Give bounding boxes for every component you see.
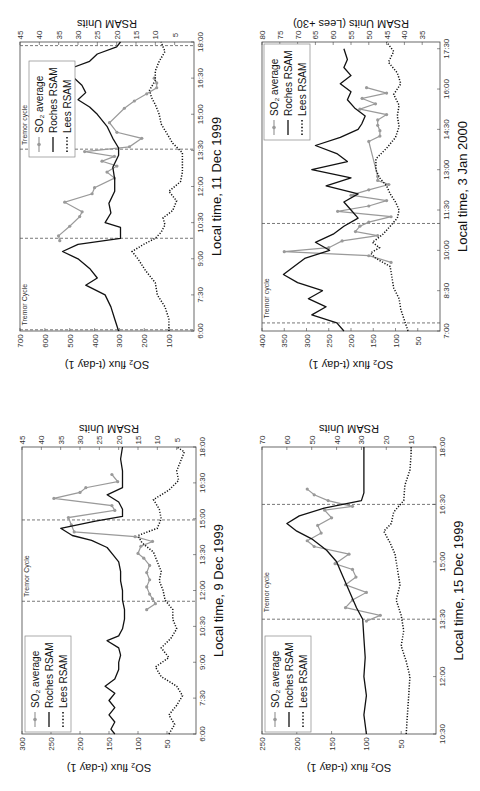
x-tick-label: 10:30: [196, 212, 205, 233]
y2-tick-label: 20: [115, 435, 124, 444]
legend-label-so2: SO₂ average: [269, 58, 280, 116]
so2-marker: [367, 254, 370, 257]
so2-marker: [379, 614, 382, 617]
x-tick-label: 15:00: [196, 104, 205, 125]
legend-label-roches: Roches RSAM: [44, 642, 55, 708]
so2-marker: [354, 576, 357, 579]
legend-label-roches: Roches RSAM: [48, 67, 59, 133]
so2-marker: [316, 524, 319, 527]
x-tick-label: 7:00: [442, 323, 451, 339]
so2-marker: [116, 480, 119, 483]
y-tick-label: 200: [293, 737, 302, 751]
y2-tick-label: 10: [153, 435, 162, 444]
so2-marker: [123, 107, 126, 110]
so2-marker: [155, 86, 158, 89]
x-tick-label: 10:30: [198, 616, 207, 637]
x-tick-label: 16:30: [438, 494, 447, 515]
y2-tick-label: 70: [294, 30, 303, 39]
so2-marker: [151, 540, 154, 543]
y2-tick-label: 30: [74, 30, 83, 39]
so2-marker: [155, 81, 158, 84]
y-tick-label: 100: [165, 334, 174, 348]
tremor-cycle-label: Tremor Cycle: [21, 284, 29, 326]
so2-marker: [110, 504, 113, 507]
so2-marker: [133, 99, 136, 102]
so2-marker: [320, 532, 323, 535]
y-axis-title: SO₂ flux (t-day 1): [307, 762, 391, 774]
y2-axis-title: RSAM Units: [319, 423, 379, 435]
so2-marker: [385, 91, 388, 94]
y2-tick-label: 10: [151, 30, 160, 39]
y2-tick-label: 25: [95, 435, 104, 444]
y2-tick-label: 50: [365, 30, 374, 39]
so2-marker: [313, 545, 316, 548]
legend-label-so2: SO₂ average: [270, 650, 281, 708]
y-tick-label: 150: [369, 334, 378, 348]
so2-marker: [361, 97, 364, 100]
y2-tick-label: 30: [76, 435, 85, 444]
y2-tick-label: 5: [171, 32, 180, 37]
y2-tick-label: 40: [35, 30, 44, 39]
y2-tick-label: 10: [407, 435, 416, 444]
so2-marker: [115, 164, 118, 167]
chart-panel-p15dec: 10:3012:0013:3015:0016:3018:005010015020…: [258, 423, 466, 774]
y2-tick-label: 35: [57, 435, 66, 444]
so2-marker: [67, 516, 70, 519]
so2-marker: [78, 491, 81, 494]
so2-marker: [57, 234, 60, 237]
so2-marker: [374, 102, 377, 105]
so2-marker: [90, 192, 93, 195]
y-tick-label: 150: [328, 737, 337, 751]
x-tick-label: 16:30: [196, 68, 205, 89]
x-tick-label: 6:00: [196, 323, 205, 339]
x-tick-label: 18:00: [198, 436, 207, 457]
legend-label-roches: Roches RSAM: [284, 642, 295, 708]
y2-tick-label: 20: [382, 435, 391, 444]
so2-marker: [387, 183, 390, 186]
so2-marker: [58, 239, 61, 242]
y2-tick-label: 45: [383, 30, 392, 39]
x-tick-label: 18:00: [438, 436, 447, 457]
x-axis-title: Local time, 15 Dec 1999: [451, 520, 466, 660]
x-tick-label: 16:30: [198, 472, 207, 493]
y2-axis-title: RSAM Units (Lees +30): [293, 18, 409, 30]
x-tick-label: 9:00: [196, 250, 205, 266]
so2-marker: [365, 620, 368, 623]
so2-marker: [100, 160, 103, 163]
so2-marker: [367, 221, 370, 224]
so2-marker: [151, 597, 154, 600]
y-tick-label: 300: [18, 737, 27, 751]
so2-marker: [113, 155, 116, 158]
y-tick-label: 200: [140, 334, 149, 348]
so2-marker: [367, 188, 370, 191]
so2-marker: [148, 592, 151, 595]
so2-marker: [327, 499, 330, 502]
so2-marker: [347, 553, 350, 556]
y-tick-label: 50: [414, 336, 423, 345]
y-tick-label: 250: [258, 737, 267, 751]
so2-marker: [136, 552, 139, 555]
so2-marker: [134, 535, 137, 538]
y2-tick-label: 20: [113, 30, 122, 39]
x-tick-label: 16:00: [442, 78, 451, 99]
x-tick-label: 8:30: [442, 282, 451, 298]
so2-marker: [376, 179, 379, 182]
y2-tick-label: 40: [333, 435, 342, 444]
legend: SO₂ averageRoches RSAMLees RSAM: [29, 61, 75, 157]
legend: SO₂ averageRoches RSAMLees RSAM: [265, 636, 311, 732]
so2-marker: [148, 578, 151, 581]
tremor-cycle-label: Tremor Cycle: [23, 555, 31, 597]
so2-marker: [376, 124, 379, 127]
y2-axis-title: RSAM Units: [79, 423, 139, 435]
y2-tick-label: 60: [329, 30, 338, 39]
so2-marker: [378, 129, 381, 132]
so2-marker: [52, 497, 55, 500]
y2-tick-label: 35: [418, 30, 427, 39]
y-tick-label: 50: [163, 739, 172, 748]
x-axis-title: Local time, 9 Dec 1999: [211, 524, 226, 657]
so2-marker: [148, 564, 151, 567]
so2-marker: [333, 562, 336, 565]
so2-marker: [110, 473, 113, 476]
y-tick-label: 400: [91, 334, 100, 348]
y-tick-label: 100: [134, 737, 143, 751]
